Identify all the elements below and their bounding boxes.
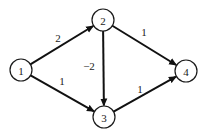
edges xyxy=(30,26,176,112)
edge-1-to-2 xyxy=(30,26,93,64)
edge-labels: 21−211 xyxy=(55,26,147,95)
node-label: 1 xyxy=(18,65,24,77)
node-1: 1 xyxy=(10,59,32,81)
graph-diagram: 1234 21−211 xyxy=(0,0,206,135)
edge-weight-3-4: 1 xyxy=(137,83,143,95)
edge-weight-2-4: 1 xyxy=(141,26,147,38)
node-label: 4 xyxy=(183,66,189,78)
edge-weight-1-3: 1 xyxy=(59,75,65,87)
node-2: 2 xyxy=(92,9,114,31)
node-3: 3 xyxy=(93,106,115,128)
edge-2-to-3 xyxy=(103,31,104,106)
node-label: 3 xyxy=(101,112,107,124)
edge-3-to-4 xyxy=(114,77,176,112)
edge-weight-2-3: −2 xyxy=(83,60,95,72)
node-label: 2 xyxy=(100,15,106,27)
edge-weight-1-2: 2 xyxy=(55,32,61,44)
node-4: 4 xyxy=(175,60,197,82)
